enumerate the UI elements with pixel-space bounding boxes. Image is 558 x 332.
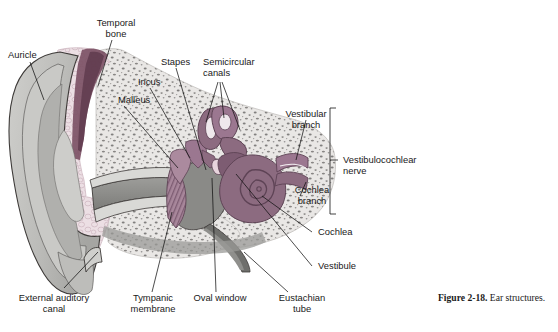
figure-caption-text: Ear structures.	[487, 292, 545, 303]
figure-caption: Figure 2-18. Ear structures.	[438, 292, 545, 303]
label-eustachian-tube-line1: Eustachian	[279, 292, 325, 303]
label-temporal-bone-line2: bone	[106, 28, 127, 39]
figure-caption-number: Figure 2-18.	[438, 292, 487, 303]
label-cochlea-branch-line2: branch	[298, 195, 327, 206]
label-vestibule: Vestibule	[318, 260, 356, 271]
ear-structures-figure: Auricle Temporal bone Malleus Incus Stap…	[0, 0, 558, 332]
label-vestibular-branch-line1: Vestibular	[285, 108, 326, 119]
label-cochlea: Cochlea	[318, 226, 353, 237]
label-oval-window: Oval window	[193, 292, 246, 303]
label-stapes: Stapes	[161, 56, 190, 67]
label-semicircular-canals-line1: Semicircular	[203, 56, 255, 67]
label-malleus: Malleus	[118, 94, 151, 105]
label-vestibulocochlear-nerve-line2: nerve	[343, 165, 366, 176]
label-temporal-bone-line1: Temporal	[97, 17, 136, 28]
label-auricle: Auricle	[8, 49, 37, 60]
leader-eustachian-tube	[244, 252, 288, 292]
label-incus: Incus	[138, 76, 161, 87]
label-vestibulocochlear-nerve-line1: Vestibulocochlear	[343, 154, 416, 165]
anatomy-artwork	[9, 48, 336, 295]
label-tympanic-membrane-line1: Tympanic	[133, 292, 173, 303]
label-eustachian-tube-line2: tube	[293, 303, 311, 314]
cochlea	[220, 155, 286, 223]
label-cochlea-branch-line1: Cochlea	[295, 184, 330, 195]
label-external-auditory-canal-line1: External auditory	[19, 292, 90, 303]
label-semicircular-canals-line2: canals	[203, 67, 230, 78]
label-vestibular-branch-line2: branch	[292, 119, 321, 130]
label-tympanic-membrane-line2: membrane	[131, 303, 176, 314]
ear-anatomy-illustration: Auricle Temporal bone Malleus Incus Stap…	[0, 0, 558, 332]
label-external-auditory-canal-line2: canal	[43, 303, 65, 314]
